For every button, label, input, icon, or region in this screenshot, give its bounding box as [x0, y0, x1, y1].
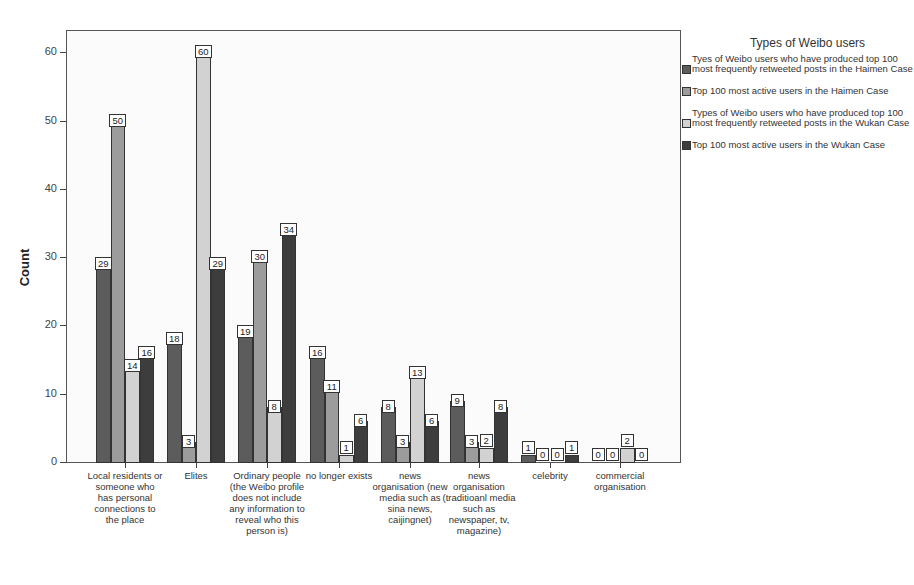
legend-swatch-icon: [682, 141, 691, 150]
bar: [111, 121, 126, 464]
bar: [479, 448, 494, 463]
bar-value-label: 1: [565, 441, 578, 454]
x-tick: [479, 463, 480, 468]
bar-value-label: 13: [409, 366, 426, 379]
bar-value-label: 1: [340, 441, 353, 454]
bar-value-label: 6: [425, 414, 438, 427]
bar-value-label: 0: [536, 448, 549, 461]
legend-item-wukan-retweeted: Types of Weibo users who have produced t…: [681, 108, 914, 139]
bar: [238, 332, 253, 463]
bar: [521, 455, 536, 463]
y-tick-label: 10: [30, 387, 57, 399]
y-tick: [60, 121, 66, 122]
x-category-label: Local residents or someone who has perso…: [87, 470, 163, 525]
bar-value-label: 14: [124, 359, 141, 372]
bar-chart: Count 0102030405060 Local residents or s…: [0, 0, 914, 585]
bar-value-label: 8: [494, 400, 507, 413]
bar-value-label: 0: [635, 448, 648, 461]
bar: [267, 407, 282, 463]
bar-value-label: 19: [237, 325, 254, 338]
bar-value-label: 0: [606, 448, 619, 461]
y-tick-label: 30: [30, 250, 57, 262]
bar: [381, 407, 396, 463]
bar-value-label: 30: [251, 250, 268, 263]
bar-value-label: 16: [138, 346, 155, 359]
bar-value-label: 16: [309, 346, 326, 359]
x-category-label: commercial organisation: [582, 470, 658, 492]
legend-item-haimen-active: Top 100 most active users in the Haimen …: [681, 86, 914, 107]
bar: [125, 366, 140, 463]
bar-value-label: 8: [382, 400, 395, 413]
plot-area: [66, 30, 681, 463]
y-tick-label: 40: [30, 182, 57, 194]
bar-value-label: 50: [109, 114, 126, 127]
bar-value-label: 34: [280, 223, 297, 236]
bar-value-label: 2: [480, 434, 493, 447]
bar: [354, 421, 369, 463]
bar-value-label: 3: [465, 435, 478, 448]
bar: [565, 455, 580, 463]
y-axis-label: Count: [17, 238, 32, 298]
legend: Types of Weibo users Tyes of Weibo users…: [681, 36, 914, 162]
bar-value-label: 3: [182, 435, 195, 448]
x-category-label: Elites: [158, 470, 234, 481]
x-tick: [410, 463, 411, 468]
bar-value-label: 3: [396, 435, 409, 448]
x-category-label: news organisation (traditioanl media suc…: [441, 470, 517, 536]
bar: [425, 421, 440, 463]
y-tick: [60, 257, 66, 258]
bar-value-label: 6: [354, 414, 367, 427]
bar-value-label: 1: [522, 441, 535, 454]
bar-value-label: 11: [323, 380, 340, 393]
y-tick-label: 60: [30, 45, 57, 57]
y-tick: [60, 325, 66, 326]
bar: [450, 401, 465, 463]
bar: [96, 264, 111, 463]
bar-value-label: 8: [268, 400, 281, 413]
bar: [167, 339, 182, 463]
bar: [339, 455, 354, 463]
y-tick: [60, 394, 66, 395]
x-tick: [125, 463, 126, 468]
bar: [620, 448, 635, 463]
x-tick: [339, 463, 340, 468]
legend-item-wukan-active: Top 100 most active users in the Wukan C…: [681, 140, 914, 161]
bar-value-label: 2: [621, 434, 634, 447]
bar-value-label: 29: [95, 257, 112, 270]
bar: [253, 257, 268, 463]
bar-value-label: 60: [195, 45, 212, 58]
legend-swatch-icon: [682, 65, 691, 74]
x-category-label: no longer exists: [301, 470, 377, 481]
y-tick-label: 20: [30, 318, 57, 330]
x-category-label: celebrity: [512, 470, 588, 481]
x-category-label: news organisation (new media such as sin…: [372, 470, 448, 525]
legend-swatch-icon: [682, 119, 691, 128]
y-tick-label: 0: [30, 455, 57, 467]
x-category-label: Ordinary people (the Weibo profile does …: [229, 470, 305, 536]
legend-swatch-icon: [682, 87, 691, 96]
bar-value-label: 0: [551, 448, 564, 461]
y-tick: [60, 52, 66, 53]
bar: [140, 353, 155, 463]
bar: [310, 353, 325, 463]
bar: [410, 373, 425, 463]
legend-item-haimen-retweeted: Tyes of Weibo users who have produced to…: [681, 54, 914, 85]
bar-value-label: 18: [166, 332, 183, 345]
bar: [325, 387, 340, 463]
bar-value-label: 9: [451, 394, 464, 407]
bar-value-label: 0: [592, 448, 605, 461]
legend-title: Types of Weibo users: [681, 36, 914, 50]
x-tick: [550, 463, 551, 468]
x-tick: [196, 463, 197, 468]
y-tick: [60, 462, 66, 463]
bar: [282, 230, 297, 463]
bar: [494, 407, 509, 463]
bar-value-label: 29: [209, 257, 226, 270]
x-tick: [267, 463, 268, 468]
bar: [211, 264, 226, 463]
y-tick: [60, 189, 66, 190]
x-tick: [620, 463, 621, 468]
y-tick-label: 50: [30, 114, 57, 126]
